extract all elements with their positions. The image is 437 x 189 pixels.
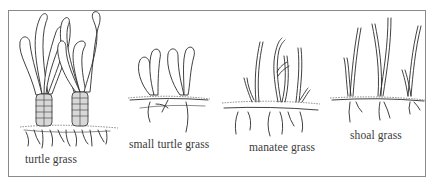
label-shoal-grass: shoal grass	[350, 129, 402, 141]
turtle-grass-drawing	[20, 12, 118, 148]
label-manatee-grass: manatee grass	[249, 141, 315, 153]
label-small-turtle-grass: small turtle grass	[129, 138, 209, 150]
manatee-grass-drawing	[222, 38, 320, 136]
shoal-grass-drawing	[330, 18, 425, 122]
small-turtle-grass-drawing	[128, 47, 210, 132]
label-turtle-grass: turtle grass	[25, 153, 77, 165]
